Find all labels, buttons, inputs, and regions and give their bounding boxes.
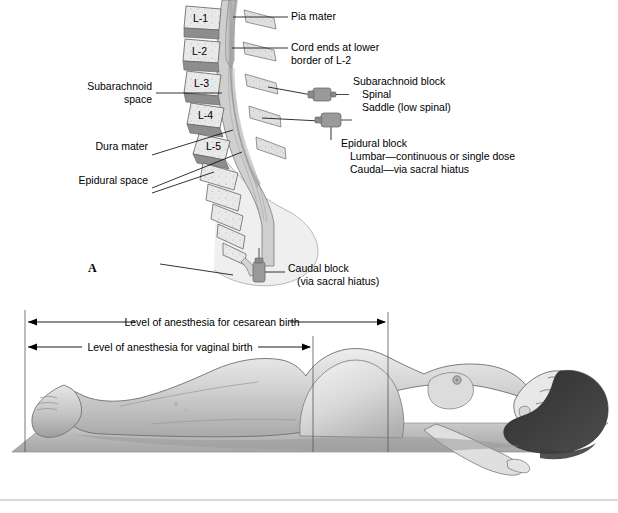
label-pia-mater: Pia mater — [291, 10, 336, 22]
knee-detail — [174, 402, 178, 406]
vertebra-label-l5: L-5 — [206, 140, 221, 152]
vertebra-label-l2: L-2 — [192, 45, 207, 57]
nipple-center — [455, 378, 458, 381]
label-epidural-block: Epidural block — [341, 137, 408, 149]
knee-detail-2 — [184, 408, 187, 411]
panel-b-supine-figure: Level of anesthesia for cesarean birth L… — [12, 310, 608, 475]
label-caudal-block-sub: (via sacral hiatus) — [297, 275, 379, 287]
dimension-vaginal: Level of anesthesia for vaginal birth — [28, 341, 311, 353]
figure-regional-anesthesia: L-1 L-2 L-3 L-4 L-5 — [0, 0, 618, 513]
label-epidural-lumbar: Lumbar—continuous or single dose — [350, 150, 515, 162]
label-subarachnoid-block: Subarachnoid block — [353, 75, 446, 87]
dimension-cesarean: Level of anesthesia for cesarean birth — [28, 316, 386, 328]
vertebra-label-l3: L-3 — [194, 77, 209, 89]
label-caudal-block: Caudal block — [288, 262, 349, 274]
label-saddle: Saddle (low spinal) — [362, 101, 451, 113]
panel-letter-a: A — [88, 261, 97, 275]
panel-a-spine-illustration: L-1 L-2 L-3 L-4 L-5 — [79, 0, 516, 300]
breast — [428, 373, 474, 409]
label-cord-ends-line1: Cord ends at lower — [291, 41, 380, 53]
spinal-needle — [268, 87, 349, 101]
label-epidural-space: Epidural space — [79, 174, 149, 186]
dimension-label-vaginal: Level of anesthesia for vaginal birth — [87, 341, 252, 353]
label-cord-ends-line2: border of L-2 — [291, 54, 351, 66]
label-spinal: Spinal — [362, 88, 391, 100]
vertebra-label-l1: L-1 — [193, 12, 208, 24]
label-subarachnoid-space-line2: space — [124, 93, 152, 105]
label-subarachnoid-space-line1: Subarachnoid — [87, 80, 152, 92]
vertebra-label-l4: L-4 — [198, 109, 213, 121]
dimension-label-cesarean: Level of anesthesia for cesarean birth — [124, 316, 299, 328]
spinous-processes — [243, 10, 286, 159]
label-dura-mater: Dura mater — [95, 140, 148, 152]
label-epidural-caudal: Caudal—via sacral hiatus — [350, 163, 469, 175]
